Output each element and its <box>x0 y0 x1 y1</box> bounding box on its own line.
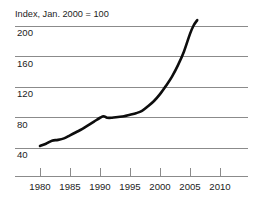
y-tick-label-80: 80 <box>17 119 28 130</box>
x-tick-label-2005: 2005 <box>179 181 200 192</box>
chart-container: Index, Jan. 2000 = 100 2001601208040 198… <box>0 0 269 205</box>
x-tick-label-2000: 2000 <box>149 181 170 192</box>
y-tick-label-120: 120 <box>17 88 33 99</box>
line-chart: Index, Jan. 2000 = 100 2001601208040 198… <box>0 0 269 205</box>
x-tick-label-1980: 1980 <box>29 181 50 192</box>
x-tick-label-2010: 2010 <box>209 181 230 192</box>
chart-title: Index, Jan. 2000 = 100 <box>15 9 109 19</box>
y-tick-label-40: 40 <box>17 149 28 160</box>
x-tick-label-1985: 1985 <box>59 181 80 192</box>
y-tick-label-200: 200 <box>17 27 33 38</box>
x-axis-tick-labels: 1980198519901995200020052010 <box>29 181 230 192</box>
x-tick-label-1995: 1995 <box>119 181 140 192</box>
y-tick-label-160: 160 <box>17 58 33 69</box>
x-tick-label-1990: 1990 <box>89 181 110 192</box>
